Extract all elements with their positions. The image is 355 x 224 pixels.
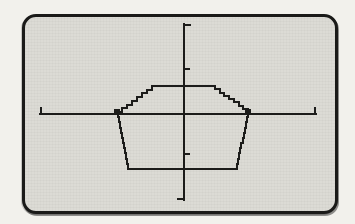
calculator-screen: [22, 14, 338, 214]
calculator-photo: [0, 0, 355, 224]
